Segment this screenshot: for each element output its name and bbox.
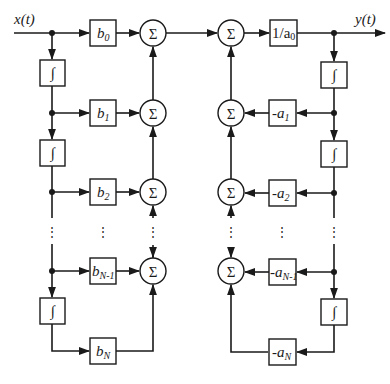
summing-junction: Σ	[218, 258, 244, 284]
ellipsis: ⋮	[225, 225, 237, 239]
gain-b0: b0	[90, 20, 116, 46]
svg-text:Σ: Σ	[227, 26, 236, 42]
svg-text:Σ: Σ	[149, 106, 158, 122]
integrator-block: ∫	[40, 60, 65, 86]
junction-dot	[49, 30, 55, 36]
integrator-block: ∫	[40, 298, 65, 324]
input-label: x(t)	[13, 11, 35, 28]
summing-junction: Σ	[140, 258, 166, 284]
output-label: y(t)	[353, 11, 376, 28]
wire	[116, 285, 153, 351]
gain-b2: b2	[90, 179, 116, 205]
gain-aN: -aN	[269, 339, 296, 365]
svg-text:Σ: Σ	[149, 185, 158, 201]
gain-aN-1: -aN-1	[269, 259, 298, 285]
block-diagram: x(t) ∫ ∫ ∫ b0 b1 b2 bN-1	[0, 0, 390, 384]
wire	[52, 324, 89, 351]
ellipsis: ⋮	[147, 225, 159, 239]
gain-b1: b1	[90, 100, 116, 126]
svg-text:Σ: Σ	[227, 106, 236, 122]
wire	[297, 325, 334, 352]
gain-bN: bN	[90, 338, 116, 364]
summing-junction: Σ	[140, 100, 166, 126]
svg-text:Σ: Σ	[227, 185, 236, 201]
ellipsis: ⋮	[328, 225, 340, 239]
wire	[231, 285, 268, 352]
summing-junction: Σ	[140, 20, 166, 46]
gain-output: 1/a0	[270, 20, 297, 46]
ellipsis: ⋮	[97, 225, 109, 239]
summing-junction: Σ	[218, 20, 244, 46]
summing-junction: Σ	[140, 179, 166, 205]
integrator-block: ∫	[321, 62, 347, 88]
summing-junction: Σ	[218, 179, 244, 205]
ellipsis: ⋮	[46, 225, 58, 239]
gain-bN-1: bN-1	[90, 258, 116, 284]
integrator-block: ∫	[321, 141, 347, 167]
svg-text:Σ: Σ	[227, 264, 236, 280]
junction-dot	[331, 30, 337, 36]
gain-a1: -a1	[269, 100, 296, 126]
svg-text:Σ: Σ	[149, 264, 158, 280]
gain-a2: -a2	[269, 180, 296, 206]
ellipsis: ⋮	[276, 225, 288, 239]
svg-text:Σ: Σ	[149, 26, 158, 42]
integrator-block: ∫	[40, 140, 65, 166]
integrator-block: ∫	[321, 299, 347, 325]
summing-junction: Σ	[218, 100, 244, 126]
